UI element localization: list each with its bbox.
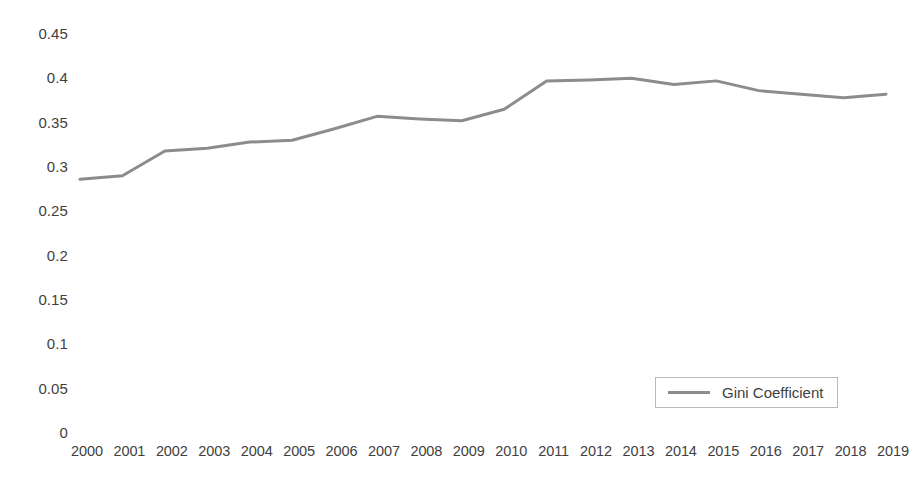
y-tick-label: 0	[60, 424, 68, 441]
y-axis: 0.450.40.350.30.250.20.150.10.050	[0, 0, 80, 498]
x-tick-label: 2007	[368, 443, 400, 459]
legend-label-gini-coefficient: Gini Coefficient	[722, 384, 823, 401]
x-tick-label: 2011	[538, 443, 569, 459]
y-tick-label: 0.35	[38, 113, 68, 130]
gini-coefficient-line	[80, 78, 886, 179]
y-tick-label: 0.4	[47, 69, 68, 86]
series-gini-coefficient	[80, 33, 886, 432]
x-tick-label: 2009	[453, 443, 485, 459]
x-tick-label: 2006	[326, 443, 358, 459]
x-tick-label: 2013	[623, 443, 655, 459]
x-tick-label: 2004	[241, 443, 273, 459]
legend-swatch-gini-coefficient	[668, 391, 710, 394]
plot-area	[80, 33, 886, 432]
x-tick-label: 2019	[877, 443, 909, 459]
x-tick-label: 2000	[71, 443, 103, 459]
x-tick-label: 2012	[580, 443, 612, 459]
chart-legend: Gini Coefficient	[655, 377, 838, 408]
x-tick-label: 2003	[198, 443, 230, 459]
y-tick-label: 0.45	[38, 25, 68, 42]
x-tick-label: 2015	[707, 443, 739, 459]
x-tick-label: 2001	[113, 443, 145, 459]
y-tick-label: 0.1	[47, 335, 68, 352]
y-tick-label: 0.05	[38, 379, 68, 396]
x-tick-label: 2014	[665, 443, 697, 459]
x-axis: 2000200120022003200420052006200720082009…	[80, 443, 886, 469]
y-tick-label: 0.3	[47, 158, 68, 175]
x-tick-label: 2005	[283, 443, 315, 459]
x-tick-label: 2008	[410, 443, 442, 459]
y-tick-label: 0.2	[47, 246, 68, 263]
x-tick-label: 2018	[835, 443, 867, 459]
x-tick-label: 2016	[750, 443, 782, 459]
x-tick-label: 2017	[792, 443, 824, 459]
y-tick-label: 0.25	[38, 202, 68, 219]
x-tick-label: 2010	[495, 443, 527, 459]
x-tick-label: 2002	[156, 443, 188, 459]
y-tick-label: 0.15	[38, 291, 68, 308]
